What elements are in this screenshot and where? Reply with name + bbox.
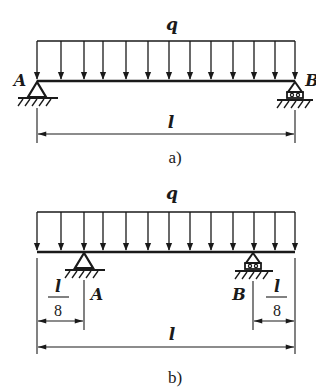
caption-b: b)	[168, 368, 182, 387]
right-overhang-dimension: l 8	[254, 277, 294, 321]
distributed-load	[37, 41, 295, 79]
left-overhang-dimension: l 8	[38, 277, 83, 321]
support-label-b: B	[304, 71, 316, 90]
fraction-denominator: 8	[54, 302, 62, 319]
distributed-load	[37, 212, 295, 250]
load-label-q: q	[166, 183, 178, 203]
roller-support-icon	[235, 253, 273, 279]
support-label-a: A	[89, 285, 103, 304]
fraction-numerator: l	[274, 277, 280, 296]
figure-b: q	[37, 183, 295, 387]
load-label-q: q	[166, 14, 178, 34]
span-label-l: l	[169, 324, 176, 344]
figure-a: q	[12, 14, 316, 167]
span-label-l: l	[168, 112, 175, 132]
beam-diagrams: q	[0, 0, 316, 388]
support-label-a: A	[12, 71, 26, 90]
span-dimension	[37, 108, 295, 143]
caption-a: a)	[168, 148, 181, 167]
pin-support-icon	[65, 253, 105, 278]
support-label-b: B	[231, 285, 246, 304]
fraction-denominator: 8	[273, 302, 281, 319]
fraction-numerator: l	[55, 277, 61, 296]
